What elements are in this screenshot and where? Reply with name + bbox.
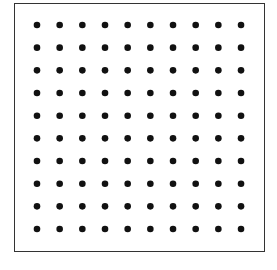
grid-dot xyxy=(102,112,109,119)
grid-dot xyxy=(147,90,154,97)
grid-dot xyxy=(170,226,177,233)
grid-dot xyxy=(147,158,154,165)
grid-dot xyxy=(215,112,222,119)
grid-dot xyxy=(170,203,177,210)
grid-dot xyxy=(238,22,245,29)
grid-dot xyxy=(79,67,86,74)
grid-dot xyxy=(34,180,41,187)
grid-dot xyxy=(79,112,86,119)
grid-dot xyxy=(238,112,245,119)
grid-dot xyxy=(56,22,63,29)
grid-dot xyxy=(79,135,86,142)
grid-dot xyxy=(170,44,177,51)
grid-dot xyxy=(102,67,109,74)
grid-dot xyxy=(192,67,199,74)
grid-dot xyxy=(79,90,86,97)
grid-dot xyxy=(192,22,199,29)
grid-dot xyxy=(124,203,131,210)
grid-dot xyxy=(170,90,177,97)
grid-dot xyxy=(124,158,131,165)
grid-dot xyxy=(124,180,131,187)
grid-dot xyxy=(56,203,63,210)
grid-dot xyxy=(238,158,245,165)
grid-dot xyxy=(34,22,41,29)
grid-dot xyxy=(238,203,245,210)
grid-dot xyxy=(34,90,41,97)
grid-dot xyxy=(238,135,245,142)
grid-dot xyxy=(56,180,63,187)
grid-dot xyxy=(79,226,86,233)
grid-dot xyxy=(124,67,131,74)
grid-dot xyxy=(124,112,131,119)
grid-dot xyxy=(147,112,154,119)
grid-dot xyxy=(170,112,177,119)
grid-dot xyxy=(147,67,154,74)
grid-dot xyxy=(170,67,177,74)
grid-dot xyxy=(170,22,177,29)
grid-dot xyxy=(56,90,63,97)
grid-dot xyxy=(34,158,41,165)
grid-dot xyxy=(34,67,41,74)
grid-dot xyxy=(192,226,199,233)
grid-dot xyxy=(56,226,63,233)
grid-dot xyxy=(79,158,86,165)
grid-dot xyxy=(124,44,131,51)
grid-dot xyxy=(238,226,245,233)
grid-dot xyxy=(34,112,41,119)
grid-dot xyxy=(34,203,41,210)
grid-dot xyxy=(79,44,86,51)
grid-dot xyxy=(170,158,177,165)
grid-dot xyxy=(102,203,109,210)
grid-dot xyxy=(56,112,63,119)
grid-dot xyxy=(124,226,131,233)
grid-dot xyxy=(192,135,199,142)
grid-dot xyxy=(147,226,154,233)
grid-dot xyxy=(238,44,245,51)
grid-dot xyxy=(56,44,63,51)
grid-dot xyxy=(215,158,222,165)
grid-dot xyxy=(102,226,109,233)
grid-dot xyxy=(215,90,222,97)
grid-dot xyxy=(238,180,245,187)
grid-dot xyxy=(79,180,86,187)
grid-dot xyxy=(124,90,131,97)
grid-dot xyxy=(215,203,222,210)
grid-dot xyxy=(215,180,222,187)
grid-dot xyxy=(147,22,154,29)
grid-dot xyxy=(34,226,41,233)
dot-grid xyxy=(0,0,277,270)
grid-dot xyxy=(34,44,41,51)
grid-dot xyxy=(238,90,245,97)
grid-dot xyxy=(79,22,86,29)
grid-dot xyxy=(192,158,199,165)
grid-dot xyxy=(215,135,222,142)
grid-dot xyxy=(56,67,63,74)
grid-dot xyxy=(147,135,154,142)
grid-dot xyxy=(215,67,222,74)
grid-dot xyxy=(56,158,63,165)
grid-dot xyxy=(102,90,109,97)
grid-dot xyxy=(147,180,154,187)
grid-dot xyxy=(124,135,131,142)
grid-dot xyxy=(102,135,109,142)
grid-dot xyxy=(34,135,41,142)
grid-dot xyxy=(124,22,131,29)
grid-dot xyxy=(102,158,109,165)
grid-dot xyxy=(215,22,222,29)
grid-dot xyxy=(192,90,199,97)
grid-dot xyxy=(238,67,245,74)
grid-dot xyxy=(147,44,154,51)
grid-dot xyxy=(192,112,199,119)
grid-dot xyxy=(56,135,63,142)
grid-dot xyxy=(79,203,86,210)
grid-dot xyxy=(215,226,222,233)
grid-dot xyxy=(170,135,177,142)
grid-dot xyxy=(102,44,109,51)
grid-dot xyxy=(147,203,154,210)
grid-dot xyxy=(215,44,222,51)
grid-dot xyxy=(192,44,199,51)
grid-dot xyxy=(192,203,199,210)
grid-dot xyxy=(102,22,109,29)
grid-dot xyxy=(102,180,109,187)
grid-dot xyxy=(192,180,199,187)
